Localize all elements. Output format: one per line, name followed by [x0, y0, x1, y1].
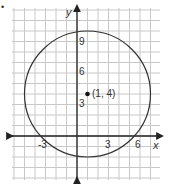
x-axis-label: x	[152, 139, 159, 151]
center-label: (1, 4)	[92, 88, 115, 99]
x-tick-6: 6	[135, 139, 141, 150]
y-tick-3: 3	[79, 98, 85, 109]
center-point	[85, 92, 90, 97]
x-tick-3: 3	[105, 139, 111, 150]
coordinate-plane: (1, 4) y x 9 6 3 -3 3 6	[0, 0, 169, 188]
y-tick-6: 6	[79, 66, 85, 77]
x-tick-neg3: -3	[38, 139, 47, 150]
y-tick-9: 9	[79, 36, 85, 47]
y-axis-label: y	[65, 6, 73, 18]
